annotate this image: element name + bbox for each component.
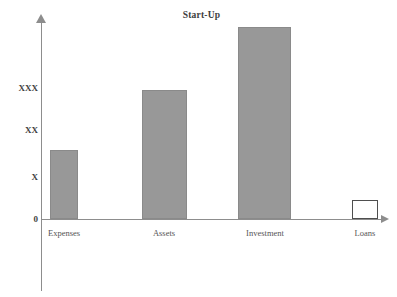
x-axis-line bbox=[41, 219, 384, 220]
x-label-expenses: Expenses bbox=[34, 228, 94, 238]
x-label-assets: Assets bbox=[134, 228, 194, 238]
bar-loans bbox=[352, 200, 378, 219]
x-axis-arrow-icon bbox=[381, 215, 389, 223]
y-axis-arrow-icon bbox=[36, 14, 46, 23]
bar-expenses bbox=[50, 150, 78, 219]
x-label-investment: Investment bbox=[232, 228, 298, 238]
y-axis-line bbox=[41, 22, 42, 291]
x-label-loans: Loans bbox=[339, 228, 391, 238]
chart-title: Start-Up bbox=[0, 10, 397, 20]
y-tick-label: 0 bbox=[2, 214, 38, 224]
y-tick-label: XX bbox=[2, 125, 38, 135]
bar-investment bbox=[238, 27, 291, 219]
bar-chart: Start-Up 0 X XX XXX Expenses Assets Inve… bbox=[0, 0, 397, 297]
bar-assets bbox=[142, 90, 187, 219]
y-tick-label: XXX bbox=[2, 83, 38, 93]
y-tick-label: X bbox=[2, 172, 38, 182]
